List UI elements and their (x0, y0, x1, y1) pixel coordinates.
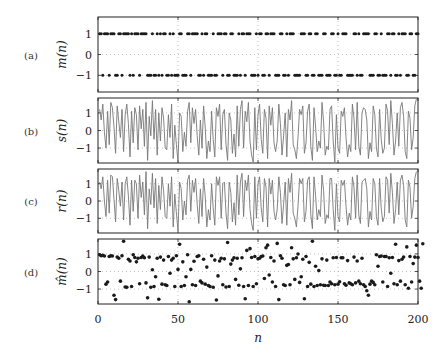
y-axis-label: m̂(n) (55, 257, 69, 286)
x-tick-label: 50 (171, 313, 185, 326)
data-point (136, 257, 140, 261)
data-point (177, 74, 180, 77)
data-point (127, 32, 130, 35)
y-axis-label: r(n) (55, 189, 69, 212)
data-point (210, 254, 214, 258)
data-point (213, 258, 217, 262)
data-point (311, 239, 315, 243)
data-point (129, 74, 132, 77)
data-point (121, 74, 124, 77)
data-point (344, 283, 348, 287)
data-point (313, 74, 316, 77)
data-point (404, 32, 407, 35)
data-point (375, 32, 378, 35)
data-point (309, 282, 313, 286)
data-point (394, 242, 398, 246)
data-point (275, 242, 279, 246)
data-point (205, 32, 208, 35)
data-point (290, 246, 294, 250)
data-point (189, 74, 192, 77)
data-point (167, 74, 170, 77)
data-point (251, 285, 255, 289)
data-point (387, 256, 391, 260)
data-point (171, 257, 175, 261)
data-point (397, 32, 400, 35)
data-point (376, 264, 380, 268)
data-point (247, 284, 251, 288)
data-point (215, 74, 218, 77)
panel-label: (a) (24, 50, 38, 61)
data-point (332, 32, 335, 35)
data-point (221, 74, 224, 77)
x-axis-label: n (254, 331, 262, 345)
data-point (392, 282, 396, 286)
data-point (333, 283, 337, 287)
data-point (243, 297, 247, 301)
data-point (266, 32, 269, 35)
data-point (283, 284, 287, 288)
data-point (227, 285, 231, 289)
data-point (299, 275, 303, 279)
data-point (103, 254, 107, 258)
data-point (147, 255, 151, 259)
data-point (236, 74, 239, 77)
x-tick-label: 150 (328, 313, 349, 326)
y-tick-label: 1 (85, 107, 92, 120)
data-point (215, 298, 219, 302)
data-point (152, 285, 156, 289)
data-point (266, 243, 270, 247)
data-point (162, 258, 166, 262)
data-point (228, 74, 231, 77)
data-point (130, 285, 134, 289)
data-point (196, 32, 199, 35)
data-point (354, 32, 357, 35)
data-point (101, 74, 104, 77)
data-point (413, 74, 416, 77)
data-point (403, 283, 407, 287)
data-point (100, 32, 103, 35)
data-point (168, 271, 172, 275)
data-point (340, 74, 343, 77)
x-tick-label: 200 (408, 313, 429, 326)
data-point (144, 281, 148, 285)
data-point (379, 254, 383, 258)
y-tick-label: −1 (76, 283, 92, 296)
data-point (185, 74, 188, 77)
data-point (354, 281, 358, 285)
panel-label: (d) (24, 267, 38, 278)
data-point (249, 32, 252, 35)
data-point (306, 285, 310, 289)
data-point (273, 32, 276, 35)
data-point (356, 74, 359, 77)
data-point (183, 284, 187, 288)
data-point (219, 257, 223, 261)
x-tick-label: 100 (248, 313, 269, 326)
data-point (319, 283, 323, 287)
data-point (145, 32, 148, 35)
y-tick-label: 1 (85, 248, 92, 261)
data-point (138, 74, 141, 77)
data-point (203, 282, 207, 286)
data-point (212, 32, 215, 35)
data-point (309, 32, 312, 35)
data-point (303, 297, 307, 301)
data-point (130, 32, 133, 35)
data-point (407, 74, 410, 77)
data-point (324, 32, 327, 35)
data-point (396, 74, 399, 77)
data-point (160, 282, 164, 286)
data-point (298, 281, 302, 285)
data-point (253, 255, 257, 259)
data-point (381, 280, 385, 284)
data-point (255, 282, 259, 286)
data-point (239, 74, 242, 77)
data-point (199, 74, 202, 77)
x-tick-label: 0 (95, 313, 102, 326)
panel-a: −101(a)m(n) (24, 17, 419, 92)
data-point (157, 297, 161, 301)
data-point (149, 74, 152, 77)
data-point (277, 298, 281, 302)
data-point (149, 286, 153, 290)
data-point (154, 275, 158, 279)
data-point (337, 32, 340, 35)
